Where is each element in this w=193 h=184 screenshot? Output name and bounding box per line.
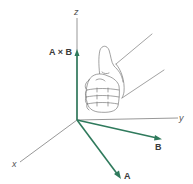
y-axis xyxy=(77,118,178,120)
x-axis-label: x xyxy=(12,160,17,169)
arrowhead-b-icon xyxy=(154,135,162,141)
vector-b-label: B xyxy=(155,143,162,152)
arrowhead-cross-icon xyxy=(75,49,80,56)
cross-product-diagram: z y x A × B B A xyxy=(0,0,193,184)
vector-a-label: A xyxy=(124,172,131,181)
vector-cross-label: A × B xyxy=(49,48,72,57)
x-axis xyxy=(20,120,77,162)
diagram-canvas xyxy=(0,0,193,184)
z-axis-label: z xyxy=(74,8,79,17)
right-hand-icon xyxy=(85,34,164,112)
y-axis-label: y xyxy=(179,114,184,123)
vectors xyxy=(75,49,163,179)
